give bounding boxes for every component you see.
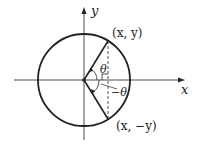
radius-lower	[84, 80, 108, 119]
angle-label-upper: θ	[100, 63, 107, 76]
y-axis-arrow-icon	[82, 7, 87, 14]
x-axis-label: x	[181, 82, 189, 97]
y-axis-label: y	[90, 3, 99, 18]
point-label-upper: (x, y)	[112, 26, 143, 40]
angle-label-lower: −θ	[111, 86, 127, 99]
point-label-lower: (x, −y)	[116, 119, 157, 133]
origin-dot	[82, 78, 86, 82]
unit-circle-diagram: y x (x, y) (x, −y) θ −θ	[0, 0, 197, 149]
